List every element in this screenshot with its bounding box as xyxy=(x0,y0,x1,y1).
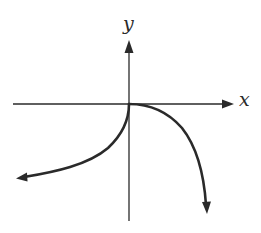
x-axis-label: x xyxy=(239,90,250,109)
function-graph: y x xyxy=(0,0,261,233)
x-axis-arrow-icon xyxy=(222,100,234,109)
right-curve-arrow-icon xyxy=(202,202,211,215)
y-axis xyxy=(125,40,134,221)
graph-canvas xyxy=(0,0,261,233)
left-curve-arrow-icon xyxy=(16,173,28,182)
y-axis-arrow-icon xyxy=(125,40,134,53)
y-axis-label: y xyxy=(123,14,134,33)
left-curve-branch xyxy=(16,104,129,182)
right-curve-branch xyxy=(129,104,211,214)
x-axis xyxy=(13,100,234,109)
